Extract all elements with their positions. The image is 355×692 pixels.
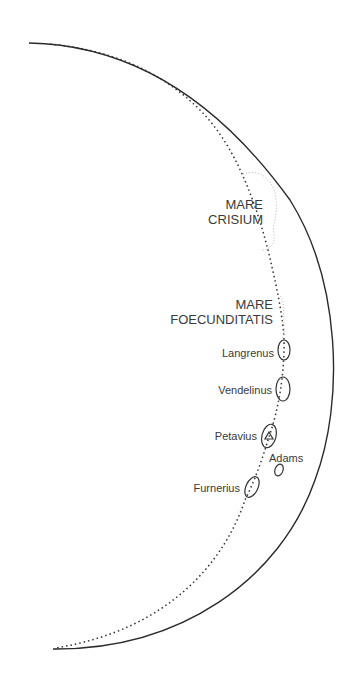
moon-limb [29,43,334,649]
furnerius-crater-icon [242,474,262,499]
svg-text:Vendelinus: Vendelinus [218,384,272,396]
svg-text:Adams: Adams [269,452,304,464]
terminator-line [50,44,284,648]
crater-langrenus: Langrenus [222,340,290,360]
svg-text:FOECUNDITATIS: FOECUNDITATIS [170,312,273,327]
mare-crisium-label: MARE CRISIUM [208,197,263,227]
svg-text:CRISIUM: CRISIUM [208,212,263,227]
adams-crater-icon [273,463,285,477]
vendelinus-crater-icon [276,377,290,401]
svg-text:Langrenus: Langrenus [222,347,274,359]
moon-crescent-diagram: MARE CRISIUM MARE FOECUNDITATIS Langrenu… [0,0,355,692]
mare-foecunditatis-outline [280,296,284,342]
crater-adams: Adams [269,452,304,477]
svg-text:Petavius: Petavius [215,430,258,442]
mare-foecunditatis-label: MARE FOECUNDITATIS [170,297,273,327]
svg-text:MARE: MARE [235,297,273,312]
svg-text:MARE: MARE [225,197,263,212]
svg-text:Furnerius: Furnerius [194,482,241,494]
